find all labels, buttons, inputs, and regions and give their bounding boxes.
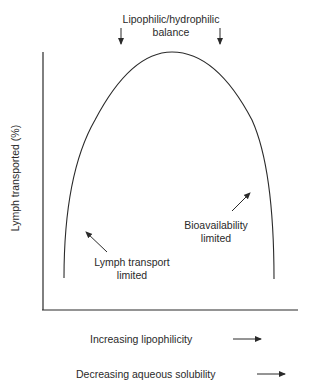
balance-title: Lipophilic/hydrophilic balance [123,13,220,39]
bioavailability-limited-label: Bioavailability limited [184,219,248,245]
bioavailability-limited-line2: limited [184,232,248,245]
x-axis-label-solubility: Decreasing aqueous solubility [76,368,216,381]
x-axis-label-lipophilicity: Increasing lipophilicity [90,333,192,346]
diagram-canvas [0,0,310,388]
lymph-transport-limited-label: Lymph transport limited [94,256,169,282]
y-axis-label: Lymph transported (%) [9,125,21,231]
balance-title-line1: Lipophilic/hydrophilic [123,13,220,26]
bioavailability-limited-arrow-icon [232,193,250,211]
lymph-transport-limited-line1: Lymph transport [94,256,169,269]
bioavailability-limited-line1: Bioavailability [184,219,248,232]
balance-title-line2: balance [123,26,220,39]
lymph-limited-arrow-icon [86,232,107,252]
lymph-transport-limited-line2: limited [94,269,169,282]
